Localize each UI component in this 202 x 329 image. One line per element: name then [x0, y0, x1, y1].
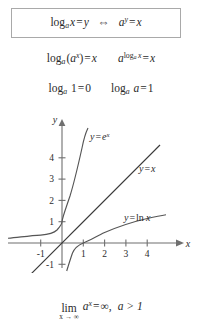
log-word: log — [50, 16, 65, 28]
exponential-curve — [8, 128, 88, 238]
equals-sign: = — [83, 52, 92, 64]
log-of-one-formula: loga 1=0 — [49, 83, 91, 96]
limit-operator: lim x → ∞ — [59, 303, 79, 322]
identity-box: logax=y⇔ay=x — [11, 8, 181, 38]
log-word-3: log — [49, 82, 64, 94]
logarithmic-curve-label: y=ln x — [124, 213, 150, 223]
result-x-2: x — [150, 52, 155, 64]
limit-expression: lim x → ∞ ax=∞,a > 1 — [59, 300, 142, 319]
y-variable: y — [84, 16, 89, 28]
log-of-base-formula: loga a=1 — [111, 83, 153, 96]
x-variable: x — [136, 16, 141, 28]
reference-card: logax=y⇔ay=x loga(ax)=x aloga x=x loga 1… — [0, 0, 202, 329]
x-axis-label: x — [185, 238, 191, 249]
identity-equation: logax=y⇔ay=x — [50, 16, 141, 30]
y-axis-arrow — [59, 119, 66, 126]
result-x: x — [92, 52, 97, 64]
log-word-4: log — [111, 82, 126, 94]
limit-body: ax=∞,a > 1 — [83, 300, 143, 312]
log-of-exp-formula: loga(ax)=x — [47, 52, 97, 66]
exp-log-graph: -1 1 2 3 4 1 2 3 4 -1 x — [0, 108, 202, 273]
zero-value: 0 — [85, 82, 91, 94]
infinity-symbol: ∞ — [101, 300, 109, 312]
equals-sign-left: = — [75, 16, 84, 28]
equals-sign-3: = — [77, 82, 86, 94]
y-tick-label-3: 3 — [49, 174, 54, 184]
equals-sign-4: = — [139, 82, 148, 94]
y-axis-label: y — [52, 114, 58, 125]
y-tick-label-neg1: -1 — [46, 260, 54, 270]
limit-comma: , — [109, 300, 118, 312]
x-tick-label-2: 2 — [102, 249, 107, 259]
exponent-log: loga x — [124, 51, 142, 60]
equals-sign-2: = — [142, 52, 151, 64]
x-tick-label-neg1: -1 — [37, 249, 45, 259]
x-tick-label-1: 1 — [81, 249, 86, 259]
x-tick-label-3: 3 — [124, 249, 129, 259]
argument-one: 1 — [67, 82, 77, 94]
one-value: 1 — [148, 82, 154, 94]
iff-icon: ⇔ — [89, 15, 119, 29]
y-tick-label-1: 1 — [49, 217, 54, 227]
x-tick-label-4: 4 — [145, 249, 150, 259]
exp-of-log-formula: aloga x=x — [118, 52, 155, 64]
identity-curve-label: y=x — [139, 164, 156, 174]
limit-subscript: x → ∞ — [59, 314, 79, 321]
log-word-2: log — [47, 52, 62, 64]
special-values-row: loga 1=0 loga a=1 — [0, 83, 202, 96]
argument-a: a — [130, 82, 140, 94]
limit-equals: = — [92, 300, 101, 312]
limit-condition: a > 1 — [118, 300, 143, 312]
y-tick-label-4: 4 — [49, 153, 54, 163]
limit-statement: lim x → ∞ ax=∞,a > 1 — [0, 300, 202, 319]
inverse-rules-row: loga(ax)=x aloga x=x — [0, 52, 202, 66]
y-tick-label-2: 2 — [49, 196, 54, 206]
exponential-curve-label: y=ex — [90, 132, 110, 142]
x-axis-arrow — [176, 240, 184, 247]
